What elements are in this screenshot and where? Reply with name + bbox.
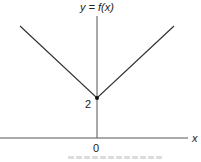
x-axis-label: x <box>192 132 198 144</box>
origin-label: 0 <box>93 142 99 154</box>
illegible-caption <box>68 156 164 159</box>
graph <box>0 0 201 162</box>
y-axis-title: y = f(x) <box>80 1 114 13</box>
vertex-label: 2 <box>85 98 91 110</box>
vertex-point <box>95 96 99 100</box>
